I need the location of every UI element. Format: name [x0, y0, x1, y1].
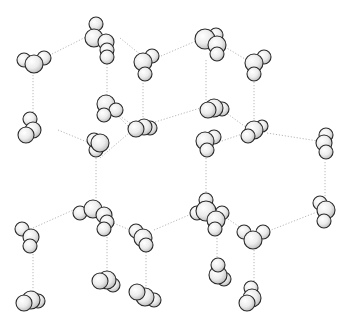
water-molecule-m3 [134, 49, 159, 81]
water-molecule-m20 [16, 291, 45, 311]
hydrogen-atom [16, 295, 32, 311]
water-molecule-m14 [73, 200, 114, 236]
molecular-lattice-svg [0, 0, 348, 327]
hydrogen-atom [97, 222, 111, 236]
water-molecule-m24 [239, 281, 261, 311]
water-molecule-m16 [15, 222, 39, 253]
hydrogen-atom [317, 214, 331, 228]
hydrogen-atom [208, 222, 222, 236]
water-molecule-m18 [237, 225, 270, 249]
water-molecule-m7 [97, 95, 123, 122]
water-molecule-m1 [17, 51, 51, 73]
hydrogen-atom [247, 67, 261, 81]
hydrogen-bond [155, 106, 207, 122]
hydrogen-bond [267, 133, 318, 141]
water-molecule-m9 [87, 133, 109, 157]
hydrogen-bond [58, 130, 87, 142]
hydrogen-atom [18, 127, 34, 143]
water-molecule-m10 [200, 99, 229, 118]
hydrogen-atom [241, 129, 255, 143]
hydrogen-bond [225, 112, 247, 128]
water-molecule-m12 [241, 120, 268, 143]
hydrogen-atom [200, 102, 216, 118]
water-molecule-m4 [195, 28, 226, 61]
water-molecule-m13 [316, 128, 333, 159]
water-molecule-m11 [196, 130, 221, 157]
hydrogen-atom [211, 258, 225, 272]
ice-crystal-diagram [0, 0, 348, 327]
water-molecule-m22 [129, 284, 161, 307]
hydrogen-atom [23, 239, 37, 253]
water-molecule-m8 [128, 119, 157, 137]
hydrogen-atom [97, 108, 111, 122]
oxygen-atom [91, 134, 109, 152]
hydrogen-bond [120, 38, 141, 55]
hydrogen-atom [139, 238, 153, 252]
hydrogen-atom [138, 67, 152, 81]
water-molecule-m5 [245, 50, 271, 81]
water-molecule-m15 [129, 224, 153, 252]
water-molecule-m6 [18, 112, 41, 143]
hydrogen-bond-layer [33, 36, 325, 292]
water-molecule-m21 [92, 271, 120, 292]
water-molecule-m17 [190, 193, 229, 236]
hydrogen-bond [33, 207, 80, 228]
water-molecule-m2 [85, 17, 114, 64]
water-molecule-m23 [209, 258, 231, 286]
hydrogen-atom [92, 273, 108, 289]
oxygen-atom [25, 55, 43, 73]
hydrogen-atom [319, 145, 333, 159]
hydrogen-atom [200, 143, 214, 157]
hydrogen-atom [100, 50, 114, 64]
hydrogen-atom [239, 295, 255, 311]
molecule-layer [15, 17, 335, 311]
hydrogen-atom [128, 121, 144, 137]
hydrogen-atom [129, 284, 145, 300]
oxygen-atom [244, 231, 262, 249]
hydrogen-atom [210, 47, 224, 61]
hydrogen-bond [266, 212, 317, 232]
